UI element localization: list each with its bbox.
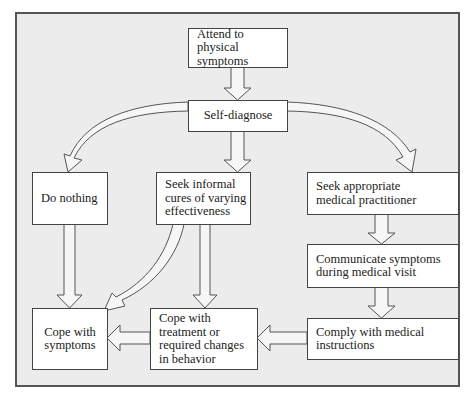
node-attend-physical-symptoms: Attend to physical symptoms bbox=[188, 28, 288, 68]
arrow-selfdiagnose-to-donothing bbox=[64, 102, 188, 172]
node-seek-medical-practitioner: Seek appropriate medical practitioner bbox=[307, 172, 459, 215]
node-do-nothing: Do nothing bbox=[32, 172, 108, 225]
node-label: Attend to physical symptoms bbox=[197, 28, 287, 69]
arrow-copetreatment-to-copesymptoms bbox=[107, 325, 150, 351]
node-label: Comply with medical instructions bbox=[316, 326, 424, 353]
node-label: Self-diagnose bbox=[204, 109, 273, 123]
node-label: Seek appropriate medical practitioner bbox=[316, 180, 416, 207]
node-label: Cope with symptoms bbox=[44, 326, 96, 353]
node-label: Communicate symptoms during medical visi… bbox=[316, 253, 441, 280]
arrow-selfdiagnose-to-practitioner bbox=[287, 102, 416, 172]
arrow-selfdiagnose-to-informal bbox=[224, 131, 251, 172]
arrow-attend-to-selfdiagnose bbox=[224, 67, 251, 100]
node-communicate-symptoms: Communicate symptoms during medical visi… bbox=[307, 244, 459, 288]
node-cope-with-treatment: Cope with treatment or required changes … bbox=[150, 308, 258, 370]
arrow-donothing-to-copesymptoms bbox=[57, 224, 82, 308]
node-label: Cope with treatment or required changes … bbox=[159, 312, 244, 366]
node-cope-with-symptoms: Cope with symptoms bbox=[32, 308, 108, 370]
node-comply-instructions: Comply with medical instructions bbox=[307, 318, 459, 360]
arrow-communicate-to-comply bbox=[368, 287, 395, 318]
node-self-diagnose: Self-diagnose bbox=[188, 100, 288, 132]
arrow-comply-to-copetreatment bbox=[257, 325, 307, 351]
arrow-informal-to-copetreatment bbox=[193, 224, 217, 308]
arrow-practitioner-to-communicate bbox=[368, 214, 395, 244]
node-label: Do nothing bbox=[41, 192, 98, 206]
node-seek-informal-cures: Seek informal cures of varying effective… bbox=[156, 172, 251, 225]
node-label: Seek informal cures of varying effective… bbox=[165, 178, 246, 219]
arrow-informal-to-copesymptoms bbox=[104, 224, 184, 311]
